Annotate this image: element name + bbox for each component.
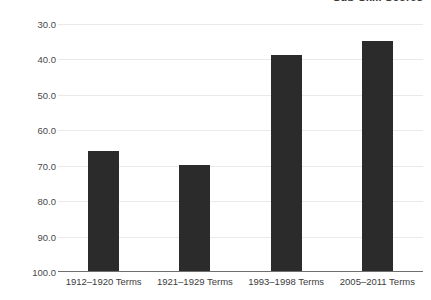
x-axis-line [58,271,423,272]
bar [88,151,119,272]
y-axis-tick-label: 80.0 [0,196,56,207]
y-axis-tick-label: 100.0 [0,267,56,278]
plot-area [58,24,423,272]
bar [271,55,302,272]
x-axis-tick-label: 2005–2011 Terms [340,276,415,287]
y-axis-tick-label: 30.0 [0,19,56,30]
x-axis-tick-label: 1912–1920 Terms [66,276,142,287]
x-axis-tick-label: 1993–1998 Terms [248,276,324,287]
bar [179,165,210,272]
gridline [58,24,423,25]
x-axis-tick-label: 1921–1929 Terms [157,276,233,287]
gridline [58,272,423,273]
bar [362,41,393,272]
y-axis-tick-label: 50.0 [0,89,56,100]
y-axis-tick-label: 40.0 [0,54,56,65]
y-axis-tick-label: 60.0 [0,125,56,136]
y-axis-tick-label: 70.0 [0,160,56,171]
y-axis-tick-label: 90.0 [0,231,56,242]
chart-title: Sub-Skill Scores [0,0,423,5]
chart-figure: Sub-Skill Scores 30.040.050.060.070.080.… [0,0,431,300]
